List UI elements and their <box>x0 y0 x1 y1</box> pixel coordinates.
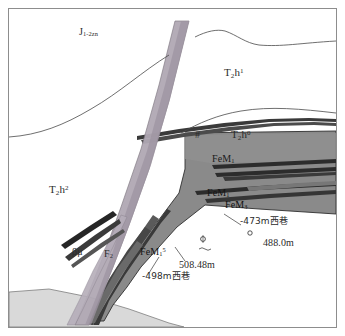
strata-label-t2h1: T2h1 <box>224 67 244 78</box>
strata-label-t2h0-text: T2h0 <box>231 128 251 140</box>
ore-label-fem1-middle-text: FeM1 <box>207 187 230 198</box>
annotation-level-498: -498m西巷 <box>142 272 190 281</box>
annotation-depth-508-text: 508.48m <box>179 259 215 270</box>
annotation-level-473: -473m西巷 <box>240 217 288 226</box>
ore-label-fem3-lower: FeM3 <box>225 200 248 210</box>
strata-label-j1-2zn-text: J1-2zn <box>79 26 98 37</box>
structure-label-f2-text: F2 <box>104 248 113 259</box>
figure-frame: J1-2zn T2h1 T2h0 T2h2 # FeM1 FeM1 FeM3 F… <box>8 8 337 328</box>
structure-label-beta-mu-text: βμ <box>72 246 83 257</box>
annotation-level-498-text: -498m西巷 <box>142 271 190 281</box>
ore-label-fem1-middle: FeM1 <box>207 188 230 198</box>
ore-label-fem3-lower-text: FeM3 <box>225 199 248 210</box>
strata-label-j1-2zn-sub: 1-2zn <box>83 30 98 37</box>
strata-label-t2h2-text: T2h2 <box>49 183 69 195</box>
ore-label-fem1-5-text: FeM15 <box>140 246 166 257</box>
structure-label-beta-mu: βμ <box>72 247 83 257</box>
strata-label-t2h2: T2h2 <box>49 184 69 195</box>
annotation-level-473-text: -473m西巷 <box>240 216 288 226</box>
structure-label-f2: F2 <box>104 249 113 259</box>
strata-label-j1-2zn: J1-2zn <box>79 27 98 37</box>
hash-marker-text: # <box>195 129 200 140</box>
ore-label-fem1-5: FeM15 <box>140 247 166 257</box>
annotation-depth-488-text: 488.0m <box>263 237 294 248</box>
annotation-depth-488: 488.0m <box>263 238 294 248</box>
hash-marker-label: # <box>195 130 200 140</box>
geological-cross-section-figure: J1-2zn T2h1 T2h0 T2h2 # FeM1 FeM1 FeM3 F… <box>0 0 345 336</box>
strata-label-t2h1-text: T2h1 <box>224 66 244 78</box>
ore-body-shade-upper <box>185 133 336 163</box>
strata-label-t2h0: T2h0 <box>231 129 251 140</box>
annotation-depth-508: 508.48m <box>179 260 215 270</box>
ore-label-fem1-upper: FeM1 <box>212 154 235 164</box>
ore-label-fem1-upper-text: FeM1 <box>212 153 235 164</box>
